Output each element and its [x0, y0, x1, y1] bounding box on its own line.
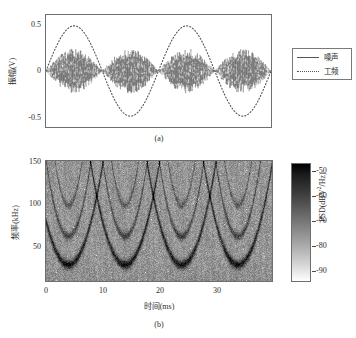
panel-a-caption: (a) [105, 134, 213, 143]
colorbar-label-4: -90 [316, 267, 327, 275]
panel-b-xtick-1: 10 [91, 287, 115, 295]
legend-entry-noise: 噪声 [293, 51, 351, 65]
colorbar-title: PSD(dBV2/Hz) [318, 172, 327, 222]
spectrogram-image [46, 161, 272, 281]
panel-a-legend: 噪声 工频 [292, 48, 352, 80]
colorbar-label-3: -80 [316, 242, 327, 250]
colorbar-gradient [291, 163, 311, 282]
colorbar-title-suffix: /Hz) [318, 172, 327, 186]
panel-a-ytick-2: -0.5 [16, 114, 41, 122]
panel-b-ylabel: 频率(kHz) [11, 194, 20, 252]
panel-b-xtick-2: 20 [148, 287, 172, 295]
panel-b-plot-area [45, 160, 273, 282]
noise-series [46, 49, 270, 93]
legend-label-mains: 工频 [324, 66, 338, 78]
legend-entry-mains: 工频 [293, 65, 351, 79]
legend-label-noise: 噪声 [324, 52, 338, 64]
panel-b-xlabel: 时间(ms) [105, 302, 213, 311]
panel-a-ytick-0: 0.5 [16, 21, 41, 29]
panel-b-caption: (b) [105, 320, 213, 329]
colorbar-title-prefix: PSD(dBV [318, 190, 327, 222]
panel-a-waveform-svg [46, 15, 271, 127]
panel-a-ylabel: 振幅(V) [8, 44, 17, 100]
panel-b-xtick-3: 30 [205, 287, 229, 295]
legend-line-dotted-icon [297, 71, 319, 72]
figure-container: 0.5 0 -0.5 振幅(V) 噪声 工频 (a) 150 [0, 0, 356, 338]
panel-a-plot-area [45, 14, 272, 128]
panel-b-xtick-0: 0 [34, 287, 58, 295]
legend-line-solid-icon [297, 57, 319, 58]
panel-b-ytick-0: 150 [14, 158, 41, 166]
panel-a-ytick-1: 0 [16, 67, 41, 75]
